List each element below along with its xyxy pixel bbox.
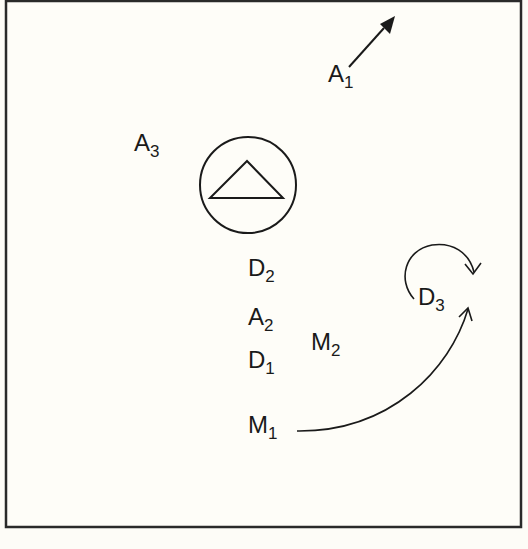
label-a2: A2 xyxy=(248,305,273,329)
label-m2: M2 xyxy=(311,330,340,354)
label-a3: A3 xyxy=(134,131,159,155)
label-m1: M1 xyxy=(248,413,277,437)
label-d3: D3 xyxy=(418,285,445,309)
label-a1: A1 xyxy=(328,62,353,86)
label-d1: D1 xyxy=(248,348,275,372)
diagram-canvas: A1 A3 D2 A2 M2 D1 M1 D3 xyxy=(0,0,528,549)
label-d2: D2 xyxy=(248,256,275,280)
